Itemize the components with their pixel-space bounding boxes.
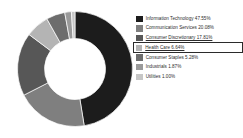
legend-swatch-industrials <box>136 64 143 71</box>
legend-swatch-consumer-staples <box>136 54 143 61</box>
donut-slice-information-technology[interactable] <box>75 12 132 126</box>
legend-item-health-care[interactable]: Health Care 6.64% <box>133 42 243 53</box>
donut-chart-area <box>16 10 134 128</box>
legend-item-information-technology[interactable]: Information Technology 47.55% <box>133 14 243 24</box>
chart-legend: Information Technology 47.55% Communicat… <box>133 14 243 82</box>
legend-item-communication-services[interactable]: Communication Services 20.08% <box>133 24 243 34</box>
legend-swatch-consumer-discretionary <box>136 35 143 42</box>
legend-item-utilities[interactable]: Utilities 1.00% <box>133 72 243 82</box>
sector-allocation-donut-chart: Information Technology 47.55% Communicat… <box>0 0 243 138</box>
donut-chart-svg <box>16 10 134 128</box>
legend-label-utilities: Utilities 1.00% <box>146 74 175 80</box>
legend-swatch-utilities <box>136 74 143 81</box>
donut-slice-group <box>17 12 132 127</box>
legend-swatch-communication-services <box>136 25 143 32</box>
legend-swatch-health-care <box>136 45 143 52</box>
legend-item-industrials[interactable]: Industrials 1.87% <box>133 62 243 72</box>
legend-item-consumer-staples[interactable]: Consumer Staples 5.28% <box>133 53 243 63</box>
legend-label-consumer-discretionary[interactable]: Consumer Discretionary 17.81% <box>146 35 213 41</box>
legend-label-health-care[interactable]: Health Care 6.64% <box>145 45 184 51</box>
legend-label-industrials: Industrials 1.87% <box>146 64 182 70</box>
legend-label-consumer-staples: Consumer Staples 5.28% <box>146 55 199 61</box>
legend-label-information-technology: Information Technology 47.55% <box>146 16 211 22</box>
legend-label-communication-services: Communication Services 20.08% <box>146 25 214 31</box>
legend-swatch-information-technology <box>136 16 143 23</box>
